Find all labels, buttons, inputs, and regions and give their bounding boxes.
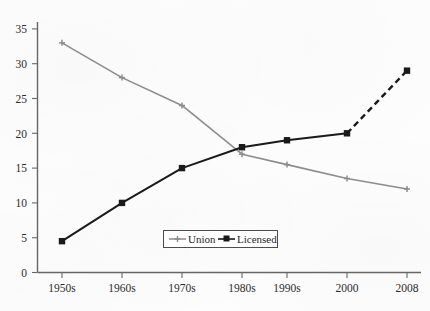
data-point-marker (119, 200, 125, 206)
series-segment (347, 71, 407, 134)
data-point-marker (179, 165, 185, 171)
y-tick-label: 15 (16, 162, 28, 174)
series-segment (62, 43, 122, 78)
legend-licensed-marker (224, 236, 230, 242)
y-tick-label: 30 (16, 58, 28, 70)
series-segment (242, 140, 287, 147)
series-segment (122, 78, 182, 106)
data-series-layer (59, 40, 410, 245)
data-point-marker (404, 186, 410, 192)
x-tick-label: 2000 (336, 282, 359, 294)
data-point-marker (344, 130, 350, 136)
y-tick-label: 0 (21, 267, 27, 279)
data-point-marker (404, 67, 410, 73)
series-licensed (59, 67, 410, 244)
series-segment (242, 154, 287, 164)
y-tick-label: 25 (16, 93, 28, 105)
line-chart-figure: 35 30 25 20 15 10 5 0 1950s 1960s 1970s … (0, 0, 430, 311)
y-tick-label: 10 (16, 197, 28, 209)
y-axis-ticks (32, 29, 38, 273)
x-tick-label: 1990s (273, 282, 301, 294)
series-segment (182, 105, 242, 154)
data-point-marker (284, 162, 290, 168)
chart-legend: Union Licensed (164, 231, 278, 248)
series-segment (347, 179, 407, 189)
x-axis-tick-labels: 1950s 1960s 1970s 1980s 1990s 2000 2008 (48, 282, 418, 294)
data-point-marker (239, 144, 245, 150)
x-tick-label: 1960s (108, 282, 136, 294)
data-point-marker (344, 176, 350, 182)
series-segment (62, 203, 122, 241)
legend-label-licensed: Licensed (237, 233, 277, 245)
y-axis-tick-labels: 35 30 25 20 15 10 5 0 (16, 23, 28, 279)
data-point-marker (284, 137, 290, 143)
y-tick-label: 20 (16, 128, 28, 140)
series-segment (287, 133, 347, 140)
x-tick-label: 2008 (396, 282, 419, 294)
legend-label-union: Union (188, 233, 216, 245)
x-tick-label: 1950s (48, 282, 76, 294)
series-segment (287, 165, 347, 179)
x-tick-label: 1980s (228, 282, 256, 294)
y-tick-label: 35 (16, 23, 28, 35)
series-segment (122, 168, 182, 203)
chart-plot-area: 35 30 25 20 15 10 5 0 1950s 1960s 1970s … (0, 0, 430, 311)
x-axis-ticks (62, 273, 407, 279)
series-union (59, 40, 410, 192)
series-segment (182, 147, 242, 168)
data-point-marker (59, 238, 65, 244)
x-tick-label: 1970s (168, 282, 196, 294)
y-tick-label: 5 (21, 232, 27, 244)
